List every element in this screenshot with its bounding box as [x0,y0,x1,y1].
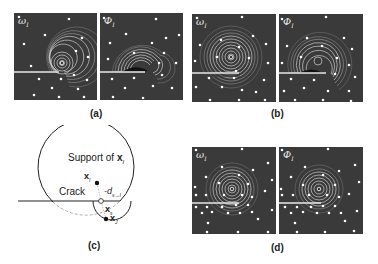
panel-a-phi: ΦI [100,13,183,100]
node-i [95,181,99,185]
node-i-label: xI [84,171,90,183]
panel-b-phi: ΦI [279,14,363,102]
nodes [103,17,181,100]
distance-label: -ds→I [104,186,121,198]
label-c: (c) [88,240,100,251]
nodes [18,16,90,99]
omega-symbol: ωI [196,149,207,162]
label-d: (d) [271,242,284,253]
omega-symbol: ωI [196,16,207,29]
node-s [99,199,104,204]
crack-label: Crack [59,186,85,197]
phi-symbol: ΦI [283,16,294,29]
label-b: (b) [271,108,284,119]
panel-d-omega: ωI [192,147,276,234]
panel-d-phi: ΦI [279,147,363,234]
support-label: Support of xI [68,152,124,165]
omega-symbol: ωI [18,15,29,28]
phi-symbol: ΦI [104,15,115,28]
node-j-label: xJ [110,213,118,225]
panel-b-omega: ωI [192,14,276,102]
node-j [104,217,108,221]
label-a: (a) [90,108,102,119]
panel-a-omega: ωI [14,13,97,100]
phi-symbol: ΦI [283,149,294,162]
